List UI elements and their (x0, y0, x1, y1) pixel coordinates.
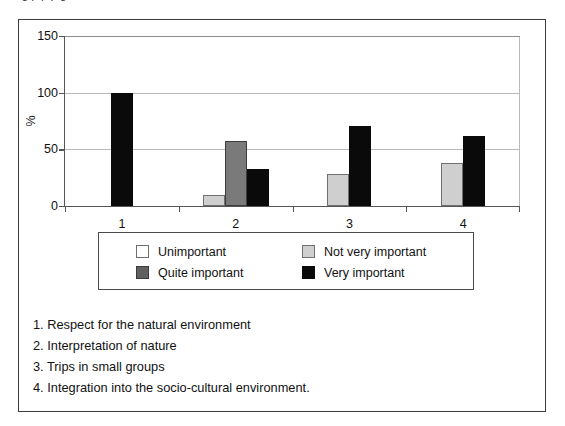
x-tick-mark-2 (293, 206, 294, 212)
x-tick-label-2: 2 (232, 217, 239, 231)
bar-2-notvery (203, 195, 225, 206)
x-tick-label-1: 1 (118, 217, 125, 231)
plot-area: % 050100150 (65, 36, 520, 206)
x-tick-label-4: 4 (460, 217, 467, 231)
legend-swatch-not-very-important-icon (302, 245, 315, 258)
legend-label-very-important: Very important (324, 266, 405, 280)
cropped-heading-text: g p p p g (22, 0, 67, 1)
bar-2-very (247, 169, 269, 206)
y-tick-label-150: 150 (37, 29, 58, 43)
bar-group-3 (293, 36, 407, 206)
caption-line-3: 3. Trips in small groups (33, 356, 533, 377)
y-tick-label-50: 50 (44, 142, 58, 156)
legend-entry-very-important: Very important (286, 266, 473, 280)
x-tick-mark-0 (65, 206, 66, 212)
legend-label-not-very-important: Not very important (324, 245, 426, 259)
bar-group-2 (179, 36, 293, 206)
y-axis-title: % (24, 115, 38, 126)
legend-entry-not-very-important: Not very important (286, 245, 473, 259)
legend-swatch-unimportant-icon (136, 245, 149, 258)
caption-line-2: 2. Interpretation of nature (33, 335, 533, 356)
bar-2-quite (225, 141, 247, 206)
y-tick-label-0: 0 (51, 199, 58, 213)
bar-group-4 (406, 36, 520, 206)
legend-entry-quite-important: Quite important (99, 266, 286, 280)
x-tick-mark-1 (179, 206, 180, 212)
bar-group-1 (65, 36, 179, 206)
legend-swatch-quite-important-icon (136, 266, 149, 279)
bar-4-notvery (441, 163, 463, 206)
bar-3-very (349, 126, 371, 206)
caption-line-1: 1. Respect for the natural environment (33, 314, 533, 335)
legend-row: Quite important Very important (99, 262, 473, 283)
bar-4-very (463, 136, 485, 206)
chart-legend: Unimportant Not very important Quite imp… (98, 232, 474, 290)
x-tick-mark-3 (406, 206, 407, 212)
caption-line-4: 4. Integration into the socio-cultural e… (33, 377, 533, 398)
bar-3-notvery (327, 174, 349, 206)
figure-frame: % 050100150 1234 Unimportant Not very im… (18, 19, 546, 412)
bar-1-very (111, 93, 133, 206)
legend-label-quite-important: Quite important (158, 266, 243, 280)
legend-entry-unimportant: Unimportant (99, 245, 286, 259)
y-tick-label-100: 100 (37, 86, 58, 100)
x-tick-mark-4 (519, 206, 520, 212)
cropped-heading-sliver: g p p p g (0, 0, 565, 14)
legend-label-unimportant: Unimportant (158, 245, 226, 259)
caption-list: 1. Respect for the natural environment2.… (33, 314, 533, 398)
legend-swatch-very-important-icon (302, 266, 315, 279)
legend-row: Unimportant Not very important (99, 241, 473, 262)
x-tick-label-3: 3 (346, 217, 353, 231)
